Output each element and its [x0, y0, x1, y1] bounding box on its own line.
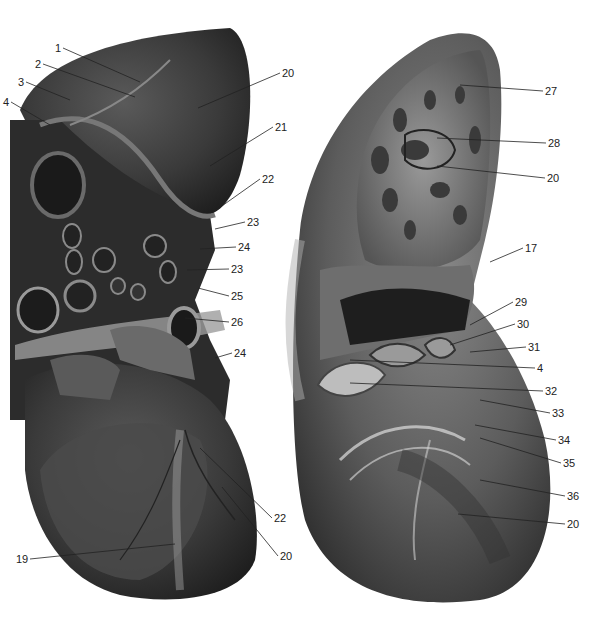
label-number: 26 — [231, 316, 243, 328]
heart-artwork — [0, 0, 610, 618]
label-number: 19 — [16, 553, 28, 565]
label-number: 35 — [563, 457, 575, 469]
heart-illustration: 1234202122232423252624222019272820172930… — [0, 0, 610, 618]
label-number: 28 — [548, 137, 560, 149]
label-number: 20 — [547, 172, 559, 184]
label-number: 20 — [282, 67, 294, 79]
label-number: 24 — [238, 241, 250, 253]
label-number: 2 — [35, 58, 41, 70]
label-number: 27 — [545, 85, 557, 97]
label-number: 32 — [545, 385, 557, 397]
label-number: 33 — [552, 407, 564, 419]
label-number: 3 — [18, 76, 24, 88]
label-number: 4 — [537, 362, 543, 374]
leader-line — [490, 248, 523, 262]
label-number: 29 — [515, 296, 527, 308]
interior-heart — [291, 33, 551, 602]
label-number: 25 — [231, 290, 243, 302]
label-number: 20 — [280, 550, 292, 562]
label-number: 21 — [275, 121, 287, 133]
label-number: 22 — [274, 512, 286, 524]
label-number: 1 — [55, 42, 61, 54]
label-number: 22 — [262, 173, 274, 185]
label-number: 31 — [528, 341, 540, 353]
label-number: 23 — [231, 263, 243, 275]
label-number: 4 — [3, 96, 9, 108]
label-number: 23 — [247, 216, 259, 228]
label-number: 36 — [567, 490, 579, 502]
label-number: 20 — [567, 518, 579, 530]
label-number: 24 — [234, 347, 246, 359]
external-heart — [10, 28, 257, 599]
label-number: 17 — [525, 242, 537, 254]
leader-line — [198, 288, 229, 296]
label-number: 34 — [558, 434, 570, 446]
label-number: 30 — [517, 318, 529, 330]
leader-line — [215, 222, 245, 229]
